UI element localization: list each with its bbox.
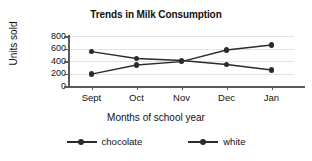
x-tick-mark (182, 86, 184, 90)
plot-area (69, 36, 294, 86)
y-tick-label: 0 (40, 82, 66, 91)
legend-label: white (223, 136, 245, 147)
x-tick-label: Sept (69, 92, 115, 103)
y-tick-label: 400 (40, 57, 66, 66)
legend-marker-chocolate (67, 138, 97, 146)
y-axis-tick-labels: 0200400600800 (36, 36, 66, 86)
x-axis-line (68, 86, 305, 88)
x-tick-mark (227, 86, 229, 90)
y-axis-title: Units sold (8, 14, 19, 74)
y-tick-mark (64, 49, 68, 51)
x-tick-mark (137, 86, 139, 90)
legend-item-chocolate[interactable]: chocolate (67, 136, 143, 147)
y-tick-mark (64, 36, 68, 38)
y-tick-mark (64, 86, 68, 88)
y-tick-label: 200 (40, 69, 66, 78)
y-tick-label: 800 (40, 32, 66, 41)
x-axis-title: Months of school year (0, 112, 312, 123)
data-point-chocolate-Jan (269, 42, 275, 48)
data-point-chocolate-Oct (134, 62, 140, 68)
data-point-chocolate-Dec (224, 47, 230, 53)
data-point-chocolate-Sept (89, 71, 95, 77)
x-tick-label: Dec (204, 92, 250, 103)
x-tick-label: Jan (249, 92, 295, 103)
y-tick-mark (64, 74, 68, 76)
milk-consumption-line-chart: Trends in Milk Consumption Units sold 02… (0, 0, 312, 161)
legend-item-white[interactable]: white (188, 136, 245, 147)
x-tick-mark (92, 86, 94, 90)
x-tick-label: Oct (114, 92, 160, 103)
chart-title: Trends in Milk Consumption (0, 9, 312, 20)
data-point-white-Jan (269, 67, 275, 73)
chart-legend: chocolatewhite (0, 136, 312, 147)
x-tick-label: Nov (159, 92, 205, 103)
x-tick-mark (272, 86, 274, 90)
y-tick-label: 600 (40, 44, 66, 53)
legend-label: chocolate (102, 136, 143, 147)
y-axis-line (68, 35, 70, 87)
y-tick-mark (64, 61, 68, 63)
legend-marker-white (188, 138, 218, 146)
